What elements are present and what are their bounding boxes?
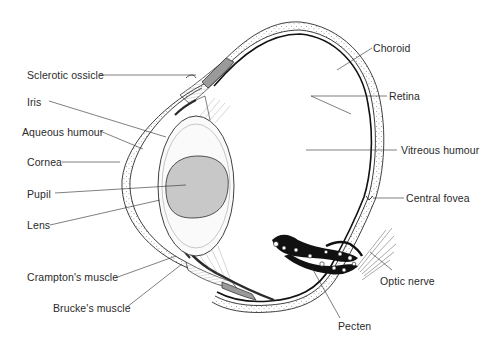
leader-lens xyxy=(50,200,160,225)
leader-aqueous-humour xyxy=(100,131,143,149)
label-choroid: Choroid xyxy=(373,42,410,54)
label-central-fovea: Central fovea xyxy=(406,192,470,204)
label-pecten: Pecten xyxy=(338,320,371,332)
label-cornea: Cornea xyxy=(27,156,62,168)
bird-eye-diagram: Sclerotic ossicle Iris Aqueous humour Co… xyxy=(0,0,498,347)
label-pupil: Pupil xyxy=(27,188,51,200)
label-retina: Retina xyxy=(389,90,420,102)
label-sclerotic-ossicle: Sclerotic ossicle xyxy=(27,69,104,81)
label-cramptons-muscle: Crampton's muscle xyxy=(27,271,118,283)
label-optic-nerve: Optic nerve xyxy=(380,275,435,287)
leader-cramptons-muscle xyxy=(115,256,176,278)
label-vitreous-humour: Vitreous humour xyxy=(401,144,479,156)
sclera-wall xyxy=(208,22,384,313)
leader-retina-b xyxy=(311,96,351,114)
label-aqueous-humour: Aqueous humour xyxy=(22,126,103,138)
sclerotic-ossicle-shape xyxy=(202,58,234,88)
pupil-core xyxy=(166,156,228,218)
eye-illustration xyxy=(0,0,498,347)
label-lens: Lens xyxy=(27,219,50,231)
label-bruckes-muscle: Brucke's muscle xyxy=(53,302,131,314)
label-iris: Iris xyxy=(27,96,41,108)
